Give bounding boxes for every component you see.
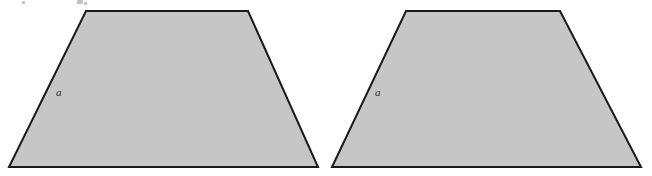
geometry-figure: a a xyxy=(0,0,652,176)
right-trapezoid-side-label: a xyxy=(375,86,381,98)
figure-canvas: a a xyxy=(0,0,652,176)
left-trapezoid-side-label: a xyxy=(56,86,62,98)
